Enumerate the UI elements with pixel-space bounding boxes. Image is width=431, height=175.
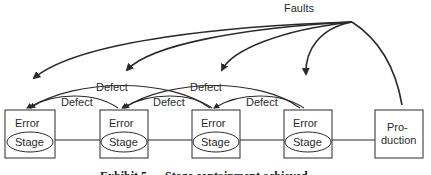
stage-label: Stage: [293, 136, 322, 148]
stage-label: Stage: [109, 136, 138, 148]
production-label-line2: duction: [381, 134, 416, 146]
production-label-line1: Pro-: [387, 121, 408, 133]
error-label: Error: [109, 117, 134, 129]
stage-label: Stage: [201, 136, 230, 148]
stage-containment-diagram: Faults Defect Defect Defect Defect Defec…: [0, 0, 431, 175]
stage-box-1: Error Stage: [5, 110, 55, 158]
defect-label: Defect: [153, 96, 185, 108]
defect-label: Defect: [61, 96, 93, 108]
defect-label: Defect: [246, 96, 278, 108]
production-box: Pro- duction: [375, 110, 423, 158]
faults-label: Faults: [284, 2, 314, 14]
figure-caption: Exhibit 5 — Stage containment achieved: [100, 169, 308, 175]
stage-box-4: Error Stage: [284, 110, 332, 158]
stage-box-2: Error Stage: [100, 110, 148, 158]
stage-label: Stage: [15, 136, 44, 148]
defect-label: Defect: [190, 81, 222, 93]
error-label: Error: [201, 117, 226, 129]
defect-label: Defect: [96, 81, 128, 93]
stage-box-3: Error Stage: [192, 110, 240, 158]
error-label: Error: [293, 117, 318, 129]
error-label: Error: [15, 117, 40, 129]
